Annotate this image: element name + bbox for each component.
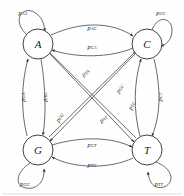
edge-TA xyxy=(47,50,136,138)
label-p-AC: pAC xyxy=(86,24,97,31)
label-p-CG: pCG xyxy=(53,111,65,124)
label-p-GC: pGC xyxy=(113,81,125,95)
edge-group-left xyxy=(23,59,45,136)
node-A-label: A xyxy=(34,38,42,50)
label-p-GT: pGT xyxy=(86,141,97,148)
transition-diagram: A C G T pAA pCC pGG pTT xyxy=(0,0,184,196)
edge-group-right xyxy=(135,59,159,136)
label-p-GA: pGA xyxy=(19,92,26,103)
node-C-label: C xyxy=(143,38,151,50)
label-p-CA: pCA xyxy=(86,43,96,50)
node-G-label: G xyxy=(34,144,42,156)
node-T-label: T xyxy=(144,144,151,156)
label-p-GG: pGG xyxy=(19,180,31,187)
edge-GC xyxy=(49,51,136,137)
label-p-CT: pCT xyxy=(156,92,163,102)
label-p-CC: pCC xyxy=(155,9,166,16)
label-p-TT: pTT xyxy=(154,180,164,187)
edge-TC xyxy=(135,59,141,136)
label-p-TA: pTA xyxy=(79,67,91,79)
edge-group-diagonal xyxy=(47,50,136,142)
label-p-TG: pTG xyxy=(86,161,97,168)
label-p-AA: pAA xyxy=(18,9,28,16)
label-p-AG: pAG xyxy=(41,92,48,103)
